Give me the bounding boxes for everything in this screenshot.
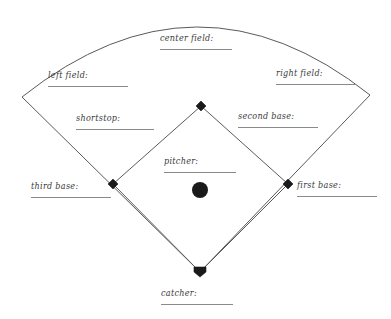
label-shortstop-text: shortstop: — [76, 113, 150, 123]
label-first-base-text: first base: — [297, 180, 373, 190]
label-catcher-blank[interactable] — [161, 304, 233, 305]
label-left-field-text: left field: — [48, 70, 124, 80]
label-second-base-text: second base: — [238, 111, 314, 121]
label-catcher: catcher: — [161, 288, 233, 305]
label-right-field-text: right field: — [276, 68, 352, 78]
label-second-base-blank[interactable] — [238, 127, 318, 128]
label-center-field: center field: — [160, 33, 232, 50]
label-left-field: left field: — [48, 70, 128, 87]
home-plate-marker — [194, 267, 206, 277]
label-second-base: second base: — [238, 111, 318, 128]
label-pitcher: pitcher: — [164, 156, 236, 173]
label-pitcher-text: pitcher: — [164, 156, 232, 166]
label-shortstop: shortstop: — [76, 113, 154, 130]
label-center-field-text: center field: — [160, 33, 228, 43]
label-third-base: third base: — [31, 181, 111, 198]
label-first-base-blank[interactable] — [297, 196, 377, 197]
label-right-field-blank[interactable] — [276, 84, 356, 85]
label-shortstop-blank[interactable] — [76, 129, 154, 130]
label-third-base-text: third base: — [31, 181, 107, 191]
pitchers-mound-marker — [192, 182, 208, 198]
label-center-field-blank[interactable] — [160, 49, 232, 50]
label-left-field-blank[interactable] — [48, 86, 128, 87]
baseball-field-worksheet: center field: left field: right field: s… — [0, 0, 391, 319]
label-pitcher-blank[interactable] — [164, 172, 236, 173]
label-third-base-blank[interactable] — [31, 197, 111, 198]
label-right-field: right field: — [276, 68, 356, 85]
label-catcher-text: catcher: — [161, 288, 229, 298]
label-first-base: first base: — [297, 180, 377, 197]
